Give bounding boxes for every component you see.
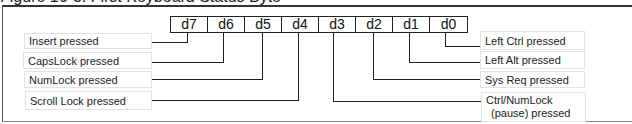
connector-d5-horizontal xyxy=(152,79,263,80)
connector-d5-vertical xyxy=(262,33,263,80)
label-ctrl-numlock-line1: Ctrl/NumLock xyxy=(486,94,585,107)
connector-d6-vertical xyxy=(223,33,224,63)
label-numlock: NumLock pressed xyxy=(24,71,152,88)
bit-d1: d1 xyxy=(393,17,430,32)
bit-d7: d7 xyxy=(171,17,208,32)
label-scroll-lock: Scroll Lock pressed xyxy=(25,91,152,110)
status-byte-bits: d7 d6 d5 d4 d3 d2 d1 d0 xyxy=(170,16,468,33)
connector-d7-horizontal xyxy=(152,42,188,43)
connector-d4-vertical xyxy=(298,33,299,101)
connector-d1-horizontal xyxy=(409,62,480,63)
connector-d0-vertical xyxy=(445,33,446,47)
connector-d0-horizontal xyxy=(445,46,480,47)
connector-d1-vertical xyxy=(409,33,410,63)
connector-d6-horizontal xyxy=(152,62,224,63)
bit-d2: d2 xyxy=(356,17,393,32)
bit-d3: d3 xyxy=(319,17,356,32)
label-left-alt: Left Alt pressed xyxy=(480,51,585,69)
label-left-ctrl: Left Ctrl pressed xyxy=(480,31,585,50)
label-ctrl-numlock: Ctrl/NumLock (pause) pressed xyxy=(481,92,586,122)
bit-d6: d6 xyxy=(208,17,245,32)
connector-d2-horizontal xyxy=(373,79,480,80)
connector-d2-vertical xyxy=(373,33,374,80)
connector-d3-horizontal xyxy=(333,101,481,102)
bit-d0: d0 xyxy=(430,17,467,32)
connector-d3-vertical xyxy=(333,33,334,102)
label-capslock: CapsLock pressed xyxy=(23,52,152,69)
bit-d5: d5 xyxy=(245,17,282,32)
label-ctrl-numlock-line2: (pause) pressed xyxy=(486,107,585,120)
label-sys-req: Sys Req pressed xyxy=(480,71,585,88)
bit-d4: d4 xyxy=(282,17,319,32)
label-insert: Insert pressed xyxy=(24,33,152,49)
connector-d4-horizontal xyxy=(152,100,299,101)
